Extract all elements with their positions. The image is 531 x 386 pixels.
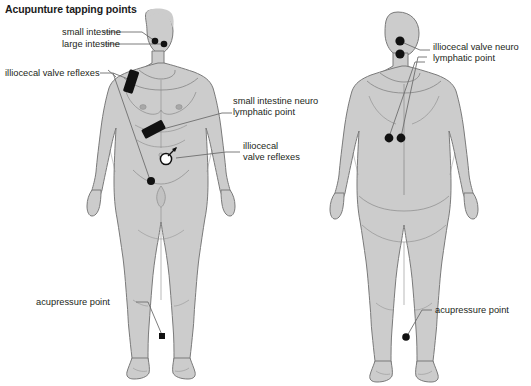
- anterior-body-figure: [87, 8, 235, 379]
- label-illiocecal-valve-reflexes-right-line1: illiocecal: [243, 141, 278, 152]
- illiocecal-valve-neuro-back-right-marker: [397, 134, 406, 143]
- illiocecal-valve-reflex-circle-marker: [160, 153, 171, 164]
- label-small-intestine: small intestine: [62, 27, 121, 38]
- illiocecal-valve-reflex-groin-dot-marker: [147, 177, 155, 185]
- label-illiocecal-valve-neuro-lymphatic-line1: illiocecal valve neuro: [433, 42, 519, 53]
- label-acupressure-point-back: acupressure point: [435, 305, 509, 316]
- small-intestine-face-point-marker: [152, 38, 159, 45]
- posterior-body-figure: [330, 12, 478, 382]
- illiocecal-valve-neuro-back-left-marker: [385, 134, 394, 143]
- label-acupressure-point-front: acupressure point: [36, 297, 110, 308]
- label-large-intestine: large intestine: [62, 39, 120, 50]
- label-illiocecal-valve-neuro-lymphatic-line2: lymphatic point: [433, 53, 495, 64]
- label-small-intestine-neuro-lymphatic-line1: small intestine neuro: [233, 96, 318, 107]
- acupressure-point-ankle-back-marker: [402, 333, 410, 341]
- label-illiocecal-valve-reflexes-right-line2: valve reflexes: [243, 152, 300, 163]
- label-small-intestine-neuro-lymphatic-line2: lymphatic point: [233, 107, 295, 118]
- illiocecal-valve-neuro-neck-upper-marker: [395, 36, 404, 45]
- acupuncture-tapping-points-diagram: Acupunture tapping points small intestin…: [0, 0, 531, 386]
- label-illiocecal-valve-reflexes-left: illiocecal valve reflexes: [5, 68, 100, 79]
- illiocecal-valve-neuro-neck-lower-marker: [395, 49, 404, 58]
- diagram-title: Acupunture tapping points: [5, 3, 137, 15]
- large-intestine-face-point-marker: [161, 41, 168, 48]
- acupressure-point-ankle-front-marker: [159, 333, 165, 339]
